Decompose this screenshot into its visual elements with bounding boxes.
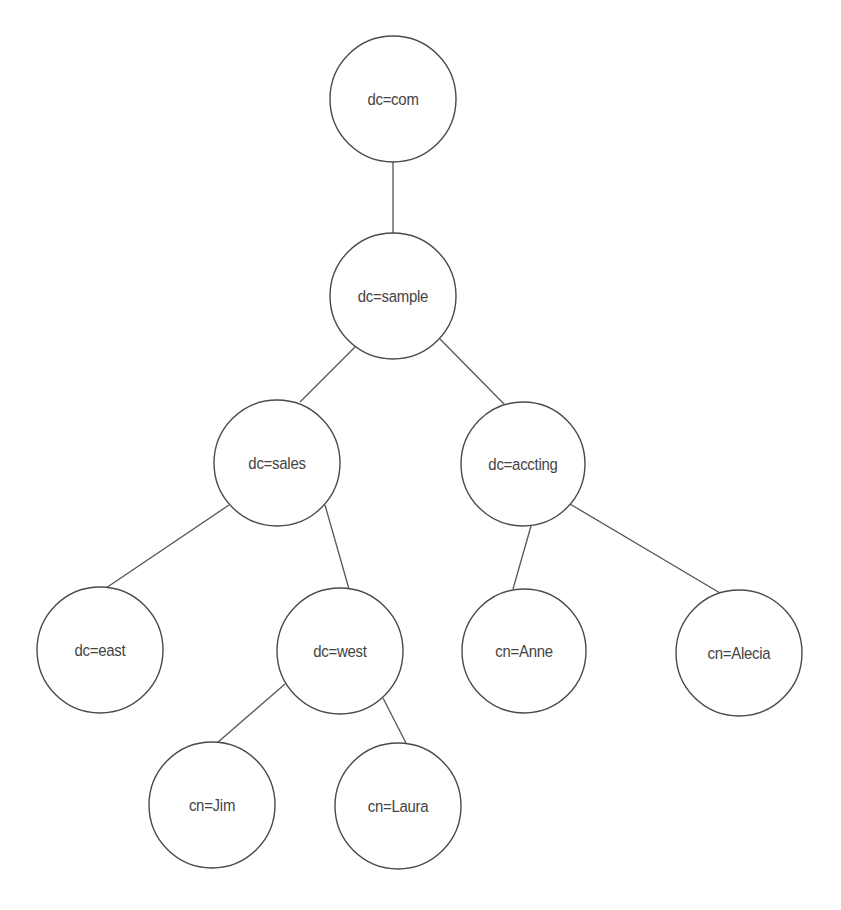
tree-node-com: dc=com	[330, 36, 456, 162]
node-label: dc=east	[75, 641, 127, 659]
tree-node-alecia: cn=Alecia	[676, 590, 802, 716]
edge-sample-to-sales	[300, 347, 355, 402]
edge-sales-to-west	[325, 505, 349, 589]
tree-nodes: dc=comdc=sampledc=salesdc=acctingdc=east…	[37, 36, 802, 869]
node-label: dc=sample	[358, 287, 429, 305]
node-label: dc=west	[313, 642, 367, 660]
node-label: cn=Laura	[368, 797, 429, 815]
tree-node-west: dc=west	[277, 588, 403, 714]
edge-west-to-laura	[383, 698, 406, 743]
node-label: cn=Anne	[495, 642, 553, 660]
tree-node-anne: cn=Anne	[462, 589, 586, 713]
tree-node-sales: dc=sales	[214, 400, 340, 526]
node-label: cn=Jim	[189, 796, 235, 814]
tree-node-jim: cn=Jim	[149, 742, 275, 868]
edge-sales-to-east	[106, 505, 229, 588]
directory-tree-diagram: dc=comdc=sampledc=salesdc=acctingdc=east…	[0, 0, 841, 910]
edge-west-to-jim	[217, 684, 285, 743]
tree-node-laura: cn=Laura	[335, 743, 461, 869]
tree-node-sample: dc=sample	[330, 233, 456, 359]
tree-node-accting: dc=accting	[461, 402, 585, 526]
edge-sample-to-accting	[440, 339, 505, 405]
node-label: dc=sales	[248, 454, 306, 472]
node-label: dc=com	[367, 90, 418, 108]
tree-node-east: dc=east	[37, 587, 163, 713]
node-label: dc=accting	[488, 455, 557, 473]
edge-accting-to-alecia	[570, 504, 720, 593]
node-label: cn=Alecia	[708, 644, 771, 662]
edge-accting-to-anne	[513, 526, 531, 589]
